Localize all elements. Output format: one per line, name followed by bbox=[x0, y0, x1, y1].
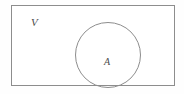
venn-diagram-figure: V A bbox=[0, 0, 184, 94]
set-a-label: A bbox=[104, 57, 110, 67]
set-a-circle bbox=[75, 22, 141, 88]
universal-set-rectangle: V A bbox=[11, 5, 175, 86]
universal-set-label: V bbox=[31, 17, 38, 28]
